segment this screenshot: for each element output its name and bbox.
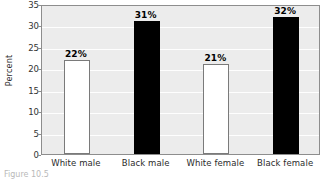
y-tick-label: 35: [0, 0, 39, 10]
y-tick-label: 25: [0, 43, 39, 53]
y-tick-label: 10: [0, 107, 39, 117]
bar-value-label: 32%: [274, 6, 296, 16]
figure-caption: Figure 10.5: [4, 170, 49, 179]
bar-value-label: 21%: [205, 53, 227, 63]
y-tick-mark: [37, 155, 41, 156]
bar: [64, 60, 90, 154]
y-tick-label: 30: [0, 21, 39, 31]
x-tick-label: White female: [186, 158, 244, 168]
bar-value-label: 31%: [135, 10, 157, 20]
y-tick-label: 20: [0, 64, 39, 74]
x-tick-label: Black male: [122, 158, 170, 168]
bar: [273, 17, 299, 154]
bar-chart-figure: Percent 05101520253035 22%31%21%32% Whit…: [0, 0, 326, 179]
bar-value-label: 22%: [65, 49, 87, 59]
y-tick-label: 0: [0, 150, 39, 160]
bar: [203, 64, 229, 154]
bar: [134, 21, 160, 154]
plot-area: [41, 5, 320, 155]
x-tick-label: White male: [51, 158, 101, 168]
y-tick-label: 5: [0, 129, 39, 139]
x-tick-label: Black female: [257, 158, 313, 168]
y-tick-label: 15: [0, 86, 39, 96]
